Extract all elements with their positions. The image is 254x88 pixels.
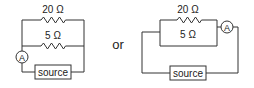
right-circuit: 20 Ω 5 Ω A source bbox=[142, 4, 238, 80]
resistor-5-ohm-left bbox=[22, 43, 84, 49]
circuit-diagram: 20 Ω 5 Ω A source or 20 Ω 5 Ω A source bbox=[0, 0, 254, 88]
resistor-5-label-right: 5 Ω bbox=[180, 29, 196, 40]
source-label-right: source bbox=[173, 68, 203, 79]
ammeter-label-left: A bbox=[19, 53, 25, 63]
or-label: or bbox=[112, 37, 124, 52]
source-label-left: source bbox=[38, 67, 68, 78]
resistor-20-label-right: 20 Ω bbox=[177, 4, 199, 15]
ammeter-label-right: A bbox=[224, 23, 230, 33]
left-circuit: 20 Ω 5 Ω A source bbox=[16, 4, 84, 79]
resistor-5-label-left: 5 Ω bbox=[45, 30, 61, 41]
resistor-20-ohm-right bbox=[160, 17, 221, 27]
resistor-20-ohm-left bbox=[22, 17, 84, 23]
resistor-20-label-left: 20 Ω bbox=[42, 4, 64, 15]
